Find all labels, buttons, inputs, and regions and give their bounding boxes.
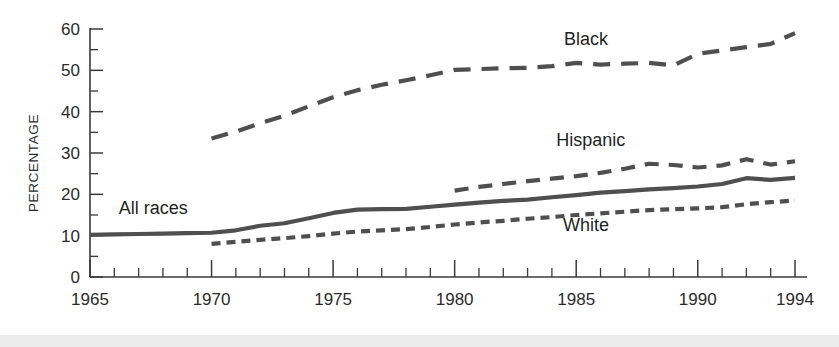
series-label-black: Black bbox=[564, 29, 609, 49]
chart-container: 0102030405060196519701975198019851990199… bbox=[0, 0, 839, 347]
y-tick-label: 10 bbox=[61, 227, 80, 246]
x-tick-label: 1975 bbox=[314, 290, 352, 309]
series-line-hispanic bbox=[455, 159, 795, 190]
bottom-strip bbox=[0, 335, 839, 347]
y-tick-label: 40 bbox=[61, 103, 80, 122]
x-tick-label: 1990 bbox=[679, 290, 717, 309]
series-label-hispanic: Hispanic bbox=[556, 130, 625, 150]
series-label-all-races: All races bbox=[119, 198, 188, 218]
x-tick-label: 1994 bbox=[776, 290, 814, 309]
y-tick-label: 0 bbox=[71, 268, 80, 287]
y-tick-label: 50 bbox=[61, 61, 80, 80]
x-tick-label: 1985 bbox=[557, 290, 595, 309]
series-line-black bbox=[212, 33, 795, 138]
x-tick-label: 1980 bbox=[436, 290, 474, 309]
line-chart: 0102030405060196519701975198019851990199… bbox=[0, 0, 839, 347]
y-axis-title: PERCENTAGE bbox=[26, 114, 41, 212]
y-tick-label: 30 bbox=[61, 144, 80, 163]
x-tick-label: 1970 bbox=[193, 290, 231, 309]
x-tick-label: 1965 bbox=[71, 290, 109, 309]
y-tick-label: 20 bbox=[61, 185, 80, 204]
y-tick-label: 60 bbox=[61, 20, 80, 39]
series-label-white: White bbox=[563, 215, 609, 235]
